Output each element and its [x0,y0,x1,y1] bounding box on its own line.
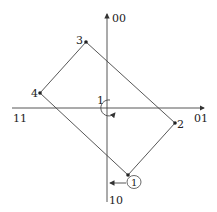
point-label-3: 3 [76,34,83,47]
edge-3-2 [86,42,175,123]
edge-1-4 [40,93,128,175]
constellation-diagram: 00 01 11 10 3 4 2 1 1 [0,0,217,212]
edge-4-3 [40,42,86,93]
axis-label-bottom: 10 [109,194,123,207]
point-4 [38,91,42,95]
axis-label-right: 01 [194,112,208,125]
point-label-1: 1 [131,177,137,188]
axis-label-left: 11 [13,112,27,125]
edge-2-1 [128,123,175,175]
point-label-4: 4 [31,87,38,100]
axis-label-top: 00 [112,12,126,25]
rotation-label: 1 [97,94,104,107]
point-1 [126,173,130,177]
point-3 [84,40,88,44]
point-label-2: 2 [177,118,184,131]
